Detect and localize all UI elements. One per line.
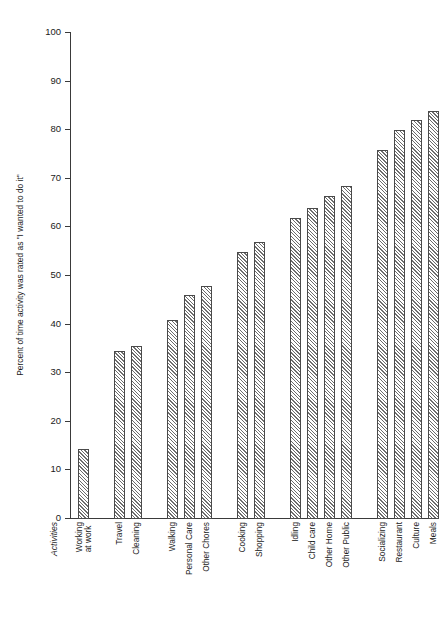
y-tick-label: 10	[50, 462, 61, 475]
y-tick-label: 80	[50, 122, 61, 135]
y-tick-mark	[65, 129, 71, 130]
y-tick-70: 70	[70, 178, 71, 179]
y-tick-50: 50	[70, 275, 71, 276]
y-axis-title: Percent of time activity was rated as "I…	[12, 30, 28, 520]
category-label-15: Meals	[428, 522, 439, 618]
plot-area: 1009080706050403020100	[70, 33, 438, 519]
x-axis-title-text: Activities	[49, 522, 59, 556]
bar-4	[184, 295, 195, 519]
y-tick-mark	[65, 469, 71, 470]
category-label-text: Child care	[308, 522, 317, 559]
y-tick-mark	[65, 32, 71, 33]
category-label-8: Idling	[290, 522, 301, 618]
y-tick-label: 90	[50, 74, 61, 87]
bar-chart: Percent of time activity was rated as "I…	[0, 0, 443, 624]
category-label-text: Restaurant	[395, 522, 404, 563]
bar-7	[254, 242, 265, 519]
category-label-text: Culture	[412, 522, 421, 549]
bar-1	[114, 351, 125, 519]
category-label-text: Other Home	[325, 522, 334, 567]
y-tick-10: 10	[70, 469, 71, 470]
category-label-3: Walking	[167, 522, 178, 618]
y-tick-mark	[65, 421, 71, 422]
category-label-text: Other Chores	[202, 522, 211, 572]
category-label-10: Other Home	[324, 522, 335, 618]
category-label-12: Socializing	[377, 522, 388, 618]
bar-14	[411, 120, 422, 519]
category-label-11: Other Public	[341, 522, 352, 618]
y-tick-100: 100	[70, 32, 71, 33]
y-tick-mark	[65, 275, 71, 276]
y-tick-label: 30	[50, 365, 61, 378]
x-axis-category-labels: Working at workTravelCleaningWalkingPers…	[70, 522, 438, 618]
category-label-9: Child care	[307, 522, 318, 618]
y-tick-80: 80	[70, 129, 71, 130]
y-axis-title-text: Percent of time activity was rated as "I…	[16, 174, 24, 375]
y-tick-90: 90	[70, 81, 71, 82]
category-label-text: Idling	[291, 522, 300, 542]
y-tick-30: 30	[70, 372, 71, 373]
bar-13	[394, 130, 405, 519]
bar-10	[324, 196, 335, 519]
bar-5	[201, 286, 212, 519]
category-label-6: Cooking	[237, 522, 248, 618]
category-label-0: Working at work	[78, 522, 89, 618]
y-tick-0: 0	[70, 518, 71, 519]
y-tick-label: 50	[50, 268, 61, 281]
category-label-text: Other Public	[342, 522, 351, 568]
category-label-1: Travel	[114, 522, 125, 618]
category-label-text: Cooking	[238, 522, 247, 552]
bar-6	[237, 252, 248, 519]
bar-11	[341, 186, 352, 519]
category-label-text: Travel	[115, 522, 124, 545]
category-label-text: Working at work	[74, 522, 92, 552]
bar-12	[377, 150, 388, 519]
y-tick-mark	[65, 178, 71, 179]
category-label-13: Restaurant	[394, 522, 405, 618]
y-tick-label: 40	[50, 317, 61, 330]
y-tick-mark	[65, 518, 71, 519]
y-tick-label: 70	[50, 171, 61, 184]
y-tick-mark	[65, 372, 71, 373]
category-label-text: Shopping	[255, 522, 264, 557]
y-tick-mark	[65, 81, 71, 82]
category-label-5: Other Chores	[201, 522, 212, 618]
y-tick-label: 100	[45, 25, 61, 38]
bar-3	[167, 320, 178, 519]
category-label-text: Walking	[168, 522, 177, 551]
y-axis-line	[70, 33, 71, 519]
category-label-14: Culture	[411, 522, 422, 618]
y-tick-60: 60	[70, 226, 71, 227]
bar-8	[290, 218, 301, 519]
bar-9	[307, 208, 318, 519]
y-tick-20: 20	[70, 421, 71, 422]
category-label-text: Personal Care	[185, 522, 194, 575]
x-axis-title: Activities	[47, 522, 61, 618]
y-tick-label: 20	[50, 414, 61, 427]
category-label-4: Personal Care	[184, 522, 195, 618]
y-tick-40: 40	[70, 324, 71, 325]
category-label-7: Shopping	[254, 522, 265, 618]
bar-0	[78, 449, 89, 519]
category-label-text: Socializing	[378, 522, 387, 562]
y-tick-mark	[65, 226, 71, 227]
y-tick-label: 60	[50, 219, 61, 232]
y-tick-mark	[65, 324, 71, 325]
bar-2	[131, 346, 142, 519]
category-label-text: Meals	[429, 522, 438, 544]
category-label-text: Cleaning	[132, 522, 141, 555]
category-label-2: Cleaning	[131, 522, 142, 618]
bar-15	[428, 111, 439, 519]
